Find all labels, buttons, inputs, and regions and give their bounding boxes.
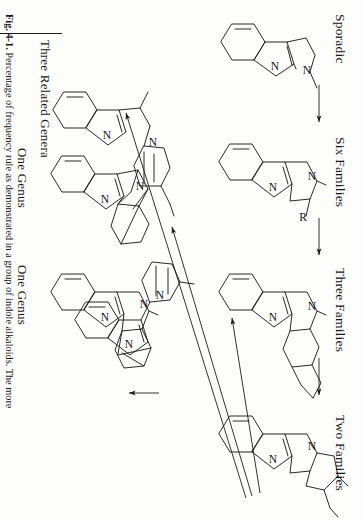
structure-related-genera-b: N N [38,76,166,221]
figure-caption-text: Percentage of frequency rule as demonstr… [4,52,15,408]
atom-label-n: N [269,453,278,465]
substituent-label-r: R [299,211,307,223]
atom-label-n: N [125,338,134,350]
stage-label-sporadic: Sporadic [332,14,348,64]
figure-stage: Sporadic Six Families Three Families Two… [0,0,362,520]
atom-label-n: N [103,129,112,141]
figure-number: Fig. 4-1. [4,14,15,50]
genus-label-one-genus-lower: One Genus [14,148,30,208]
structure-related-genera-a: N N [68,244,190,372]
structure-yohimbane-pentacycle: N N [204,258,336,398]
structure-corynantheine-type: N N [210,400,340,520]
atom-label-n: N [308,440,317,452]
stage-label-six-families: Six Families [332,137,348,207]
figure-caption: Fig. 4-1. Percentage of frequency rule a… [2,14,15,408]
atom-label-n: N [156,289,165,301]
atom-label-n: N [269,311,278,323]
structure-tryptamine: N N [208,8,328,128]
atom-label-n: N [271,60,280,72]
atom-label-n: N [303,64,312,76]
atom-label-n: N [269,181,278,193]
atom-label-n: N [308,170,317,182]
genus-label-one-genus-upper: One Genus [14,265,30,325]
structure-corynanthe-tetracycle: N N R [204,128,332,258]
atom-label-n: N [308,300,317,312]
atom-label-n: N [149,136,158,148]
